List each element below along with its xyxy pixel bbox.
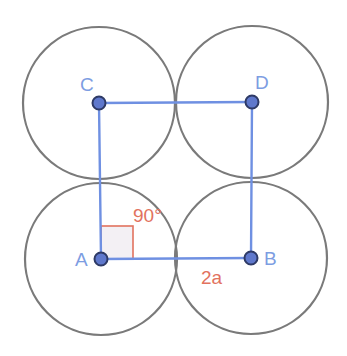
- label-c: C: [80, 74, 94, 95]
- segment-ac: [99, 103, 101, 259]
- point-d: [246, 96, 259, 109]
- label-b: B: [264, 248, 277, 269]
- side-length-label: 2a: [201, 267, 223, 288]
- segment-ab: [101, 258, 251, 259]
- point-b: [245, 252, 258, 265]
- segment-db: [251, 102, 252, 258]
- label-a: A: [75, 249, 88, 270]
- point-c: [93, 97, 106, 110]
- label-d: D: [255, 72, 269, 93]
- point-a: [95, 253, 108, 266]
- angle-label: 90°: [133, 205, 162, 226]
- diagram-canvas: C D A B 90° 2a: [0, 0, 347, 356]
- segment-cd: [99, 102, 252, 103]
